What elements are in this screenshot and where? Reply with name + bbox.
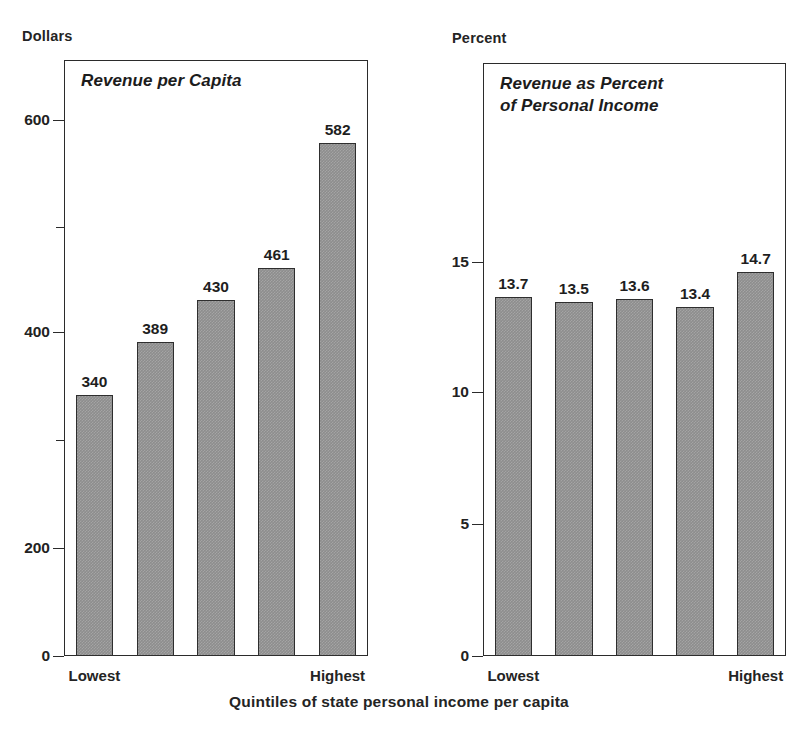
- y-axis-tick-label: 0: [41, 647, 50, 665]
- category-label-highest: Highest: [728, 667, 783, 684]
- y-axis-tick-label: 5: [460, 515, 469, 533]
- bar: 340: [76, 395, 113, 656]
- y-axis-tick-label: 0: [460, 647, 469, 665]
- y-axis-minor-tick: [56, 227, 64, 228]
- bar-value-label: 13.7: [498, 275, 528, 293]
- right-axis-unit-caption: Percent: [452, 30, 507, 46]
- bar-value-label: 13.4: [680, 285, 710, 303]
- figure-canvas: Dollars Percent Revenue per Capita 60040…: [0, 0, 798, 732]
- bar: 14.7: [737, 272, 774, 656]
- y-axis-tick-label: 10: [452, 383, 469, 401]
- chart-panel-revenue-as-percent-of-personal-income: Revenue as Percent of Personal Income 15…: [483, 63, 786, 656]
- y-axis-tick: [472, 392, 483, 393]
- x-axis-caption: Quintiles of state personal income per c…: [0, 693, 798, 711]
- y-axis-tick-label: 200: [24, 539, 50, 557]
- bar-value-label: 430: [203, 278, 229, 296]
- bar: 461: [258, 268, 295, 656]
- y-axis-tick: [53, 656, 64, 657]
- bar: 13.5: [555, 302, 592, 656]
- category-label-highest: Highest: [310, 667, 365, 684]
- bar-value-label: 340: [81, 373, 107, 391]
- bar: 430: [197, 300, 234, 656]
- y-axis-tick: [53, 332, 64, 333]
- bar-value-label: 389: [142, 320, 168, 338]
- panel-title: Revenue per Capita: [81, 70, 242, 92]
- y-axis-minor-tick: [56, 440, 64, 441]
- category-label-lowest: Lowest: [487, 667, 539, 684]
- y-axis-tick-label: 15: [452, 253, 469, 271]
- bar: 13.7: [495, 297, 532, 656]
- y-axis-tick: [53, 548, 64, 549]
- y-axis-tick: [472, 656, 483, 657]
- y-axis-tick: [472, 524, 483, 525]
- chart-panel-revenue-per-capita: Revenue per Capita 6004002000 3403894304…: [64, 60, 368, 656]
- bar: 389: [137, 342, 174, 656]
- bar-value-label: 582: [325, 121, 351, 139]
- y-axis-tick-label: 400: [24, 323, 50, 341]
- category-label-lowest: Lowest: [69, 667, 121, 684]
- y-axis-tick: [53, 120, 64, 121]
- bar-value-label: 461: [264, 246, 290, 264]
- bar-value-label: 13.5: [559, 280, 589, 298]
- left-axis-unit-caption: Dollars: [22, 28, 73, 44]
- bar-value-label: 13.6: [619, 277, 649, 295]
- y-axis-tick: [472, 262, 483, 263]
- panel-title: Revenue as Percent of Personal Income: [500, 73, 663, 117]
- bar: 13.4: [676, 307, 713, 656]
- bar-value-label: 14.7: [741, 250, 771, 268]
- bar: 13.6: [616, 299, 653, 656]
- bar: 582: [319, 143, 356, 656]
- y-axis-tick-label: 600: [24, 111, 50, 129]
